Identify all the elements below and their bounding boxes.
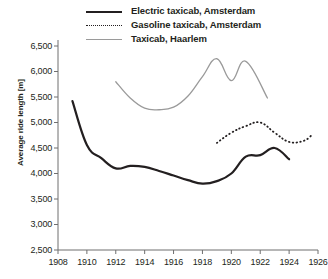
legend-swatch-solid-line-icon (86, 6, 122, 16)
series-line-haarlem-taxicab (116, 59, 268, 110)
series-line-electric-taxicab (72, 101, 289, 184)
y-axis-tick-label: 6,000 (12, 67, 52, 76)
legend-label-gasoline: Gasoline taxicab, Amsterdam (131, 19, 261, 30)
y-axis-tick-label: 3,500 (12, 195, 52, 204)
x-axis-tick-label: 1926 (298, 258, 328, 267)
y-axis-tick-label: 6,500 (12, 42, 52, 51)
legend-item-electric: Electric taxicab, Amsterdam (86, 4, 316, 17)
y-axis-tick-label: 5,000 (12, 118, 52, 127)
legend-swatch-dotted-line-icon (86, 20, 122, 30)
chart-series (72, 59, 312, 184)
y-axis-tick-label: 5,500 (12, 93, 52, 102)
legend-item-gasoline: Gasoline taxicab, Amsterdam (86, 18, 316, 31)
legend-label-electric: Electric taxicab, Amsterdam (131, 5, 255, 16)
chart-figure: Electric taxicab, Amsterdam Gasoline tax… (0, 0, 328, 279)
y-axis-tick-label: 3,000 (12, 220, 52, 229)
y-axis-tick-label: 4,500 (12, 144, 52, 153)
legend-item-haarlem: Taxicab, Haarlem (86, 32, 316, 45)
legend-label-haarlem: Taxicab, Haarlem (131, 33, 207, 44)
series-line-gasoline-taxicab (217, 122, 312, 143)
legend-swatch-gray-line-icon (86, 34, 122, 44)
y-axis-tick-label: 4,000 (12, 169, 52, 178)
chart-axes (54, 40, 318, 254)
chart-legend: Electric taxicab, Amsterdam Gasoline tax… (86, 4, 316, 46)
x-axis-tick-labels: 1908191019121914191619181920192219241926 (0, 250, 328, 266)
y-axis-tick-labels: 6,5006,0005,5005,0004,5004,0003,5003,000… (8, 0, 52, 279)
